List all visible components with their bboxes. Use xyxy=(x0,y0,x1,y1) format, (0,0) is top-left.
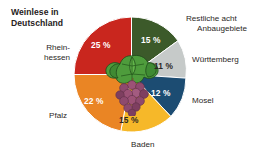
slice-label-rest-line-1: Restliche acht xyxy=(186,14,237,23)
slice-value-mosel: 12 % xyxy=(151,88,171,98)
slice-value-pfalz: 22 % xyxy=(84,96,104,106)
slice-value-rheinhessen: 25 % xyxy=(91,40,111,50)
slice-label-rest-line-2: Anbaugebiete xyxy=(186,24,247,34)
slice-label-mosel: Mosel xyxy=(192,96,214,106)
slice-label-rheinhessen-line-1: Rhein- xyxy=(46,43,70,52)
slice-value-wuerttemberg: 11 % xyxy=(154,61,173,71)
chart-figure: Weinlese in Deutschland xyxy=(0,0,264,164)
slice-label-baden: Baden xyxy=(131,140,154,150)
slice-label-wuerttemberg: Württemberg xyxy=(192,55,239,65)
slice-label-restliche-acht-anbaugebiete: Restliche acht Anbaugebiete xyxy=(186,14,247,33)
slice-value-baden: 15 % xyxy=(119,115,139,125)
slice-value-restliche-acht-anbaugebiete: 15 % xyxy=(141,35,161,45)
slice-label-rheinhessen: Rhein- hessen xyxy=(24,43,70,62)
slice-label-pfalz: Pfalz xyxy=(49,111,67,121)
slice-label-rheinhessen-line-2: hessen xyxy=(44,53,70,62)
